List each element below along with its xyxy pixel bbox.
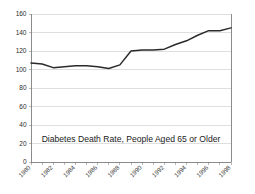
- y-axis-tick-label: 100: [16, 66, 27, 73]
- y-axis-tick-label: 40: [19, 121, 27, 128]
- y-axis-tick-label: 20: [19, 140, 27, 147]
- y-axis-tick-label: 60: [19, 103, 27, 110]
- y-axis-tick-label: 80: [19, 84, 27, 91]
- y-axis-tick-label: 120: [16, 47, 27, 54]
- chart-annotation-label: Diabetes Death Rate, People Aged 65 or O…: [42, 134, 221, 144]
- y-axis-tick-label: 140: [16, 29, 27, 36]
- y-axis-tick-label: 160: [16, 10, 27, 17]
- chart-container: 020406080100120140160 198019821984198619…: [0, 0, 255, 194]
- line-chart: 020406080100120140160 198019821984198619…: [0, 0, 255, 194]
- chart-background: [0, 0, 255, 194]
